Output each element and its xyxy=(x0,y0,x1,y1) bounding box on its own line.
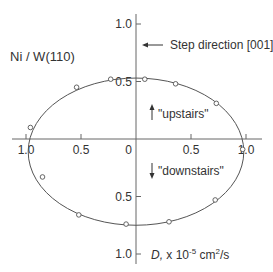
downstairs-annotation: "downstairs" xyxy=(150,163,224,179)
step-direction-annotation: Step direction [001] xyxy=(142,38,273,52)
data-point xyxy=(167,220,172,225)
data-point xyxy=(124,222,129,227)
data-point xyxy=(40,175,45,180)
data-point xyxy=(28,125,33,130)
y-tick-label: 0.5 xyxy=(115,75,132,89)
axis-label-symbol: D, xyxy=(151,248,163,262)
up-arrowhead-icon xyxy=(150,104,155,110)
data-point xyxy=(173,82,178,87)
upstairs-annotation: "upstairs" xyxy=(150,104,209,121)
upstairs-label: "upstairs" xyxy=(158,107,209,121)
down-arrowhead-icon xyxy=(150,173,155,179)
data-point xyxy=(213,198,218,203)
chart-canvas: 1.00.500.51.01.00.50.51.0 Ni / W(110) St… xyxy=(0,0,273,272)
axis-label-cm: cm xyxy=(196,248,215,262)
data-point xyxy=(74,85,79,90)
y-tick-label: 1.0 xyxy=(115,247,132,261)
y-tick-label: 1.0 xyxy=(115,17,132,31)
x-tick-label: 0 xyxy=(125,143,132,157)
data-point xyxy=(77,213,82,218)
x-tick-label: 0.5 xyxy=(183,143,200,157)
data-point xyxy=(214,101,219,106)
axis-label-unit: x 10 xyxy=(163,248,189,262)
data-point xyxy=(240,147,245,152)
step-direction-label: Step direction [001] xyxy=(170,38,273,52)
chart-title: Ni / W(110) xyxy=(10,49,75,64)
data-point xyxy=(108,77,113,82)
data-point xyxy=(143,77,148,82)
downstairs-label: "downstairs" xyxy=(158,164,224,178)
left-arrowhead-icon xyxy=(142,43,148,48)
axis-label-per-s: /s xyxy=(220,248,229,262)
x-tick-label: 1.0 xyxy=(18,143,35,157)
x-tick-label: 0.5 xyxy=(73,143,90,157)
y-tick-label: 0.5 xyxy=(115,190,132,204)
axis-label: D, x 10-5 cm2/s xyxy=(151,247,229,262)
